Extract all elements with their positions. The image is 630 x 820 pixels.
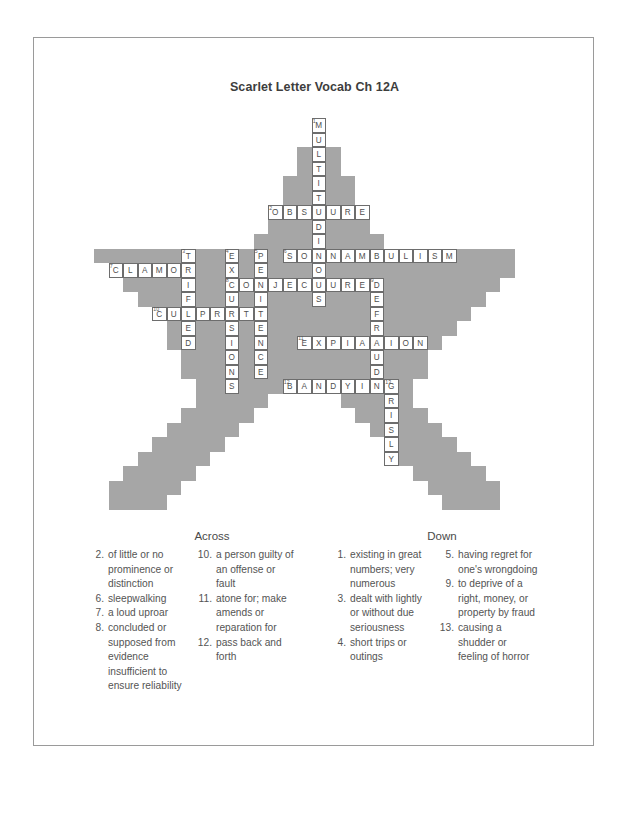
crossword-cell[interactable]: S: [225, 379, 240, 394]
crossword-cell[interactable]: R: [210, 307, 225, 322]
crossword-cell[interactable]: O: [312, 263, 327, 278]
crossword-cell[interactable]: L: [312, 147, 327, 162]
crossword-cell[interactable]: Y: [341, 379, 356, 394]
crossword-cell[interactable]: O: [225, 350, 240, 365]
crossword-cell[interactable]: T: [312, 162, 327, 177]
crossword-cell[interactable]: 6S: [283, 249, 298, 264]
crossword-cell[interactable]: N: [225, 365, 240, 380]
crossword-cell[interactable]: U: [167, 307, 182, 322]
crossword-cell[interactable]: D: [370, 365, 385, 380]
crossword-cell[interactable]: S: [428, 249, 443, 264]
crossword-cell[interactable]: T: [312, 191, 327, 206]
crossword-cell[interactable]: 13G: [384, 379, 399, 394]
crossword-cell[interactable]: R: [225, 307, 240, 322]
crossword-cell[interactable]: 10C: [152, 307, 167, 322]
crossword-cell[interactable]: I: [384, 408, 399, 423]
crossword-cell[interactable]: 3T: [181, 249, 196, 264]
crossword-cell[interactable]: I: [312, 234, 327, 249]
crossword-cell[interactable]: L: [384, 437, 399, 452]
crossword-cell[interactable]: L: [123, 263, 138, 278]
crossword-cell[interactable]: E: [254, 365, 269, 380]
crossword-cell[interactable]: D: [326, 379, 341, 394]
crossword-cell[interactable]: A: [138, 263, 153, 278]
crossword-cell[interactable]: 1M: [312, 118, 327, 133]
crossword-cell[interactable]: X: [225, 263, 240, 278]
crossword-cell[interactable]: P: [326, 336, 341, 351]
crossword-cell[interactable]: S: [297, 205, 312, 220]
crossword-cell[interactable]: I: [384, 336, 399, 351]
crossword-cell[interactable]: S: [384, 423, 399, 438]
crossword-cell[interactable]: N: [413, 336, 428, 351]
crossword-cell[interactable]: E: [254, 321, 269, 336]
crossword-cell[interactable]: T: [239, 307, 254, 322]
crossword-cell[interactable]: E: [355, 205, 370, 220]
crossword-cell[interactable]: 2O: [268, 205, 283, 220]
crossword-cell[interactable]: D: [181, 336, 196, 351]
crossword-cell[interactable]: R: [370, 321, 385, 336]
crossword-cell[interactable]: X: [312, 336, 327, 351]
crossword-cell[interactable]: I: [225, 336, 240, 351]
crossword-cell[interactable]: Y: [384, 452, 399, 467]
crossword-cell[interactable]: O: [399, 336, 414, 351]
crossword-cell[interactable]: U: [370, 350, 385, 365]
crossword-cell[interactable]: O: [297, 249, 312, 264]
crossword-cell[interactable]: I: [355, 379, 370, 394]
crossword-cell[interactable]: U: [326, 205, 341, 220]
crossword-cell[interactable]: A: [370, 336, 385, 351]
crossword-cell[interactable]: F: [370, 307, 385, 322]
crossword-cell[interactable]: U: [312, 133, 327, 148]
crossword-cell[interactable]: N: [312, 249, 327, 264]
crossword-cell[interactable]: S: [225, 321, 240, 336]
crossword-cell[interactable]: O: [239, 278, 254, 293]
crossword-cell[interactable]: R: [341, 278, 356, 293]
crossword-cell[interactable]: U: [326, 278, 341, 293]
crossword-cell[interactable]: I: [413, 249, 428, 264]
crossword-cell[interactable]: T: [254, 307, 269, 322]
crossword-cell[interactable]: R: [181, 263, 196, 278]
crossword-cell[interactable]: B: [370, 249, 385, 264]
crossword-cell[interactable]: 5P: [254, 249, 269, 264]
crossword-cell[interactable]: E: [355, 278, 370, 293]
crossword-cell[interactable]: 8C: [225, 278, 240, 293]
crossword-cell[interactable]: L: [399, 249, 414, 264]
crossword-cell[interactable]: I: [341, 336, 356, 351]
crossword-cell[interactable]: E: [370, 292, 385, 307]
crossword-cell[interactable]: E: [254, 263, 269, 278]
crossword-cell[interactable]: 12B: [283, 379, 298, 394]
crossword-cell[interactable]: M: [355, 249, 370, 264]
crossword-cell[interactable]: U: [312, 278, 327, 293]
crossword-cell[interactable]: U: [384, 249, 399, 264]
crossword-cell[interactable]: U: [225, 292, 240, 307]
crossword-cell[interactable]: D: [312, 220, 327, 235]
crossword-cell[interactable]: N: [312, 379, 327, 394]
crossword-cell[interactable]: N: [254, 278, 269, 293]
crossword-cell[interactable]: F: [181, 292, 196, 307]
crossword-cell[interactable]: R: [341, 205, 356, 220]
crossword-cell[interactable]: N: [370, 379, 385, 394]
crossword-cell[interactable]: I: [254, 292, 269, 307]
crossword-cell[interactable]: O: [167, 263, 182, 278]
crossword-cell[interactable]: S: [312, 292, 327, 307]
crossword-cell[interactable]: E: [181, 321, 196, 336]
crossword-cell[interactable]: C: [254, 350, 269, 365]
crossword-cell[interactable]: A: [355, 336, 370, 351]
crossword-cell[interactable]: U: [312, 205, 327, 220]
crossword-cell[interactable]: A: [297, 379, 312, 394]
crossword-cell[interactable]: P: [196, 307, 211, 322]
crossword-grid[interactable]: 1MULTITUDINOUS2OBSURE3TRIFLED4EX8CURSION…: [94, 118, 539, 518]
crossword-cell[interactable]: R: [384, 394, 399, 409]
crossword-cell[interactable]: M: [442, 249, 457, 264]
crossword-cell[interactable]: 7C: [109, 263, 124, 278]
crossword-cell[interactable]: E: [283, 278, 298, 293]
crossword-cell[interactable]: N: [254, 336, 269, 351]
crossword-cell[interactable]: 4E: [225, 249, 240, 264]
crossword-cell[interactable]: A: [341, 249, 356, 264]
crossword-cell[interactable]: C: [297, 278, 312, 293]
crossword-cell[interactable]: I: [312, 176, 327, 191]
crossword-cell[interactable]: M: [152, 263, 167, 278]
crossword-cell[interactable]: J: [268, 278, 283, 293]
crossword-cell[interactable]: 11E: [297, 336, 312, 351]
crossword-cell[interactable]: L: [181, 307, 196, 322]
crossword-cell[interactable]: N: [326, 249, 341, 264]
crossword-cell[interactable]: 9D: [370, 278, 385, 293]
